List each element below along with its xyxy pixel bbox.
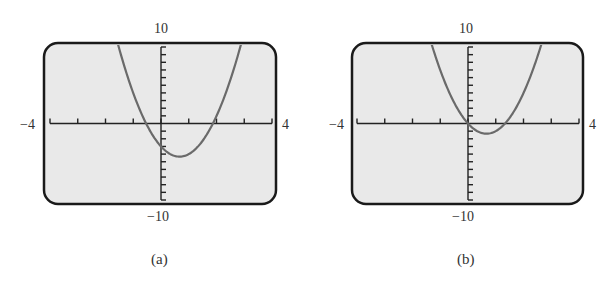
panel-caption: (b) (457, 252, 475, 267)
panel-caption: (a) (151, 252, 168, 267)
ymin-label: −10 (452, 210, 474, 224)
graph-panel-a: 10 −10 −4 4 (a) (0, 0, 307, 283)
ymin-label: −10 (147, 210, 169, 224)
xmin-label: −4 (329, 118, 344, 132)
graph-b-plot (307, 0, 614, 283)
ymax-label: 10 (459, 22, 473, 36)
xmin-label: −4 (20, 118, 35, 132)
ymax-label: 10 (154, 22, 168, 36)
graph-panel-b: 10 −10 −4 4 (b) (307, 0, 614, 283)
xmax-label: 4 (282, 118, 289, 132)
xmax-label: 4 (589, 118, 596, 132)
graph-a-plot (0, 0, 307, 283)
